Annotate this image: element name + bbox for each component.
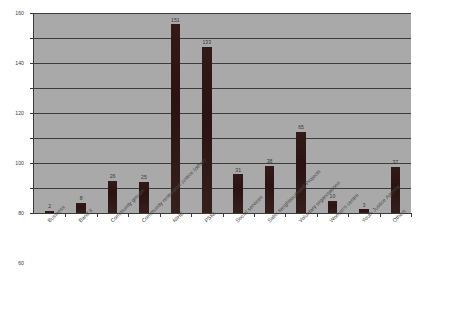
bar-value-label: 10	[330, 194, 336, 199]
gridline	[34, 13, 411, 14]
y-axis-tick: 60	[30, 138, 34, 139]
bar-value-label: 26	[110, 174, 116, 179]
bar: 8	[76, 203, 85, 213]
y-axis-tick: 20	[30, 188, 34, 189]
y-axis-tick-label: 80	[18, 211, 24, 216]
x-axis-tick	[65, 213, 66, 217]
gridline	[34, 63, 411, 64]
x-axis-tick	[128, 213, 129, 217]
bar-value-label: 38	[267, 159, 273, 164]
y-axis-tick-label: 120	[15, 111, 24, 116]
plot-area: 020406080100120140160 282625151133313865…	[33, 13, 411, 214]
bar-value-label: 25	[141, 175, 147, 180]
gridline	[34, 138, 411, 139]
bar-value-label: 2	[48, 204, 51, 209]
y-axis-tick: 80	[30, 113, 34, 114]
gridline	[34, 113, 411, 114]
y-axis-tick-label: 160	[15, 11, 24, 16]
bar: 65	[296, 132, 305, 213]
bar: 2	[45, 211, 54, 214]
bar-value-label: 3	[362, 203, 365, 208]
x-axis-tick	[348, 213, 349, 217]
y-axis-tick: 0	[30, 213, 34, 214]
x-axis-tick	[223, 213, 224, 217]
x-axis-tick	[160, 213, 161, 217]
x-axis-tick	[97, 213, 98, 217]
bar: 10	[328, 201, 337, 214]
bar: 37	[391, 167, 400, 213]
bar: 25	[139, 182, 148, 213]
bar: 26	[108, 181, 117, 214]
bar: 38	[265, 166, 274, 214]
gridline	[34, 88, 411, 89]
y-axis-tick-label: 140	[15, 61, 24, 66]
y-axis-tick-label: 100	[15, 161, 24, 166]
x-axis-tick	[191, 213, 192, 217]
gridline	[34, 163, 411, 164]
y-axis-tick: 120	[30, 63, 34, 64]
bar: 31	[233, 174, 242, 213]
x-axis-tick	[254, 213, 255, 217]
gridline	[34, 38, 411, 39]
bar-value-label: 31	[235, 168, 241, 173]
y-axis-tick: 100	[30, 88, 34, 89]
bar: 3	[359, 209, 368, 213]
y-axis-tick: 140	[30, 38, 34, 39]
x-axis-tick	[317, 213, 318, 217]
bar: 151	[171, 24, 180, 213]
bar-value-label: 133	[202, 40, 211, 45]
bar-value-label: 37	[392, 160, 398, 165]
x-axis-tick	[411, 213, 412, 217]
y-axis-tick-label: 60	[18, 261, 24, 266]
x-axis-tick	[285, 213, 286, 217]
bar-value-label: 65	[298, 125, 304, 130]
gridline	[34, 188, 411, 189]
y-axis-tick: 40	[30, 163, 34, 164]
bar-chart: 020406080100120140160 282625151133313865…	[0, 0, 456, 311]
bar-value-label: 8	[80, 196, 83, 201]
bar-value-label: 151	[171, 18, 180, 23]
x-axis-tick	[380, 213, 381, 217]
bar: 133	[202, 47, 211, 213]
y-axis-tick: 160	[30, 13, 34, 14]
